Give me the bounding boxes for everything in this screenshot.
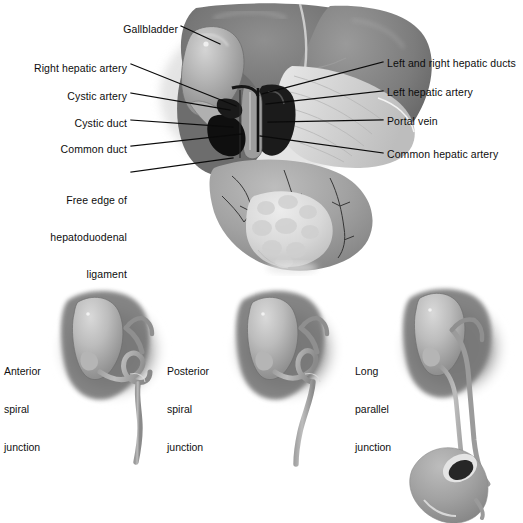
caption-anterior-spiral-junction: Anterior spiral junction bbox=[4, 340, 41, 479]
caption-long-parallel-line1: Long bbox=[355, 365, 391, 378]
caption-long-parallel-line3: junction bbox=[355, 441, 391, 454]
leader-portal-vein bbox=[268, 120, 383, 122]
caption-anterior-line3: junction bbox=[4, 441, 41, 454]
caption-posterior-line2: spiral bbox=[167, 403, 209, 416]
caption-posterior-line1: Posterior bbox=[167, 365, 209, 378]
leader-gallbladder bbox=[181, 26, 220, 44]
label-cystic-duct: Cystic duct bbox=[0, 117, 127, 129]
label-hepatic-ducts: Left and right hepatic ducts bbox=[387, 57, 523, 69]
caption-long-parallel-junction: Long parallel junction bbox=[355, 340, 391, 479]
label-free-edge-line2: hepatoduodenal bbox=[0, 231, 127, 243]
leader-left-hepatic-artery bbox=[266, 91, 383, 104]
leader-common-duct bbox=[131, 134, 242, 146]
leader-free-edge bbox=[131, 158, 233, 172]
label-free-edge-hepatoduodenal-ligament: Free edge of hepatoduodenal ligament bbox=[0, 169, 127, 305]
leader-hepatic-ducts bbox=[262, 62, 383, 94]
caption-posterior-line3: junction bbox=[167, 441, 209, 454]
label-free-edge-line1: Free edge of bbox=[0, 194, 127, 206]
leader-common-hepatic-artery bbox=[260, 136, 383, 153]
label-free-edge-line3: ligament bbox=[0, 268, 127, 280]
caption-anterior-line1: Anterior bbox=[4, 365, 41, 378]
anatomy-figure: Gallbladder Right hepatic artery Cystic … bbox=[0, 0, 523, 523]
label-common-hepatic-artery: Common hepatic artery bbox=[387, 148, 523, 160]
caption-anterior-line2: spiral bbox=[4, 403, 41, 416]
leader-right-hepatic-artery bbox=[131, 64, 236, 106]
label-portal-vein: Portal vein bbox=[387, 115, 523, 127]
label-cystic-artery: Cystic artery bbox=[0, 90, 127, 102]
label-gallbladder: Gallbladder bbox=[0, 23, 178, 35]
caption-posterior-spiral-junction: Posterior spiral junction bbox=[167, 340, 209, 479]
leader-cystic-artery bbox=[131, 93, 230, 110]
leader-cystic-duct bbox=[131, 120, 233, 127]
label-right-hepatic-artery: Right hepatic artery bbox=[0, 62, 127, 74]
caption-long-parallel-line2: parallel bbox=[355, 403, 391, 416]
label-common-duct: Common duct bbox=[0, 143, 127, 155]
label-left-hepatic-artery: Left hepatic artery bbox=[387, 86, 523, 98]
